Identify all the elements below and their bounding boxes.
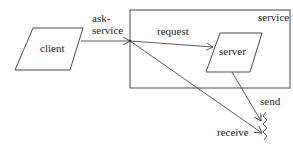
service-container[interactable]: service [130, 10, 290, 88]
service-label: service [258, 11, 289, 23]
server-node[interactable]: server [206, 33, 262, 72]
zigzag-lost-icon [263, 112, 267, 140]
ask-service-edge[interactable]: ask- service [81, 12, 130, 41]
ask-service-label-line1: ask- [92, 12, 111, 24]
receive-label: receive [217, 126, 249, 138]
request-label: request [157, 25, 189, 37]
diagram-canvas: service client server ask- service reque… [0, 0, 293, 144]
ask-service-label-line2: service [92, 24, 123, 36]
request-edge[interactable]: request [130, 25, 213, 47]
client-node[interactable]: client [15, 28, 83, 70]
server-label: server [219, 45, 246, 57]
send-edge[interactable]: send [232, 72, 281, 121]
send-label: send [260, 95, 281, 107]
client-label: client [40, 42, 64, 54]
